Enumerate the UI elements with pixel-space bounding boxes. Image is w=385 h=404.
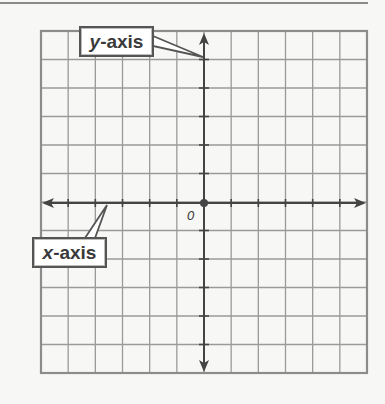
axes xyxy=(42,33,366,372)
y-axis-callout: y-axis xyxy=(79,26,154,57)
origin-label: 0 xyxy=(187,208,194,223)
x-axis-text: -axis xyxy=(53,242,96,264)
coordinate-plane xyxy=(0,0,385,404)
x-axis-callout-leader xyxy=(85,205,107,238)
origin-point xyxy=(200,199,208,207)
callout-leaders xyxy=(85,36,203,238)
y-variable: y xyxy=(90,31,101,53)
x-variable: x xyxy=(43,242,54,264)
y-axis-text: -axis xyxy=(100,31,143,53)
y-axis-callout-leader xyxy=(153,36,203,57)
x-axis-callout: x-axis xyxy=(32,237,107,268)
